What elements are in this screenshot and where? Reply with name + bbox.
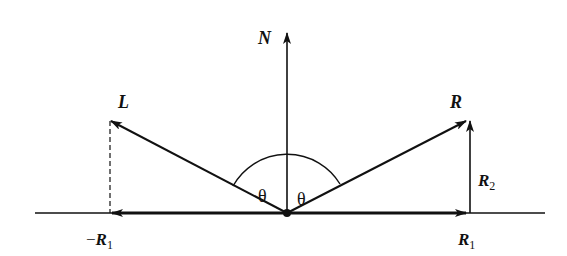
label-l: L (117, 92, 129, 112)
label-r1: R1 (457, 230, 475, 252)
label-r: R (449, 92, 462, 112)
reflection-diagram: N L R θ θ R2 −R1 R1 (0, 0, 567, 256)
reflected-vector (287, 121, 466, 213)
label-neg-r1-main: R (95, 230, 107, 249)
label-theta-left: θ (258, 186, 267, 206)
label-r2-main: R (477, 171, 489, 190)
label-neg-r1: −R1 (86, 230, 113, 252)
label-neg-r1-sub: 1 (107, 238, 113, 252)
label-n: N (257, 28, 272, 48)
origin-point (283, 209, 291, 217)
label-neg-r1-sign: − (86, 230, 96, 249)
label-r1-main: R (457, 230, 469, 249)
label-r1-sub: 1 (469, 238, 475, 252)
label-theta-right: θ (297, 189, 306, 209)
label-r2-sub: 2 (489, 179, 495, 193)
label-r2: R2 (477, 171, 495, 193)
diagram-svg: N L R θ θ R2 −R1 R1 (0, 0, 567, 256)
